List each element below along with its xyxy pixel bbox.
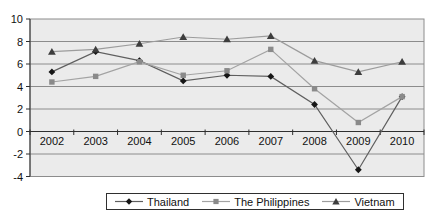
- y-axis-labels: 1086420-2-4: [11, 13, 23, 183]
- svg-text:4: 4: [17, 81, 23, 93]
- legend-item-thailand: Thailand: [115, 196, 189, 208]
- svg-text:10: 10: [11, 13, 23, 25]
- legend-label-vietnam: Vietnam: [354, 196, 394, 208]
- svg-text:2007: 2007: [259, 135, 283, 147]
- legend-label-philippines: The Philippines: [234, 196, 309, 208]
- philippines-square-icon: [202, 197, 230, 206]
- plot-area: 1086420-2-420022003200420052006200720082…: [0, 0, 432, 190]
- svg-text:2009: 2009: [346, 135, 370, 147]
- legend-item-philippines: The Philippines: [202, 196, 309, 208]
- svg-text:0: 0: [17, 126, 23, 138]
- line-chart: 1086420-2-420022003200420052006200720082…: [0, 0, 432, 212]
- svg-text:2: 2: [17, 103, 23, 115]
- svg-text:-2: -2: [13, 148, 23, 160]
- svg-text:2003: 2003: [83, 135, 107, 147]
- plot-background: [30, 19, 424, 177]
- svg-text:2010: 2010: [390, 135, 414, 147]
- vietnam-triangle-icon: [322, 197, 350, 206]
- svg-text:2005: 2005: [171, 135, 195, 147]
- svg-text:8: 8: [17, 36, 23, 48]
- svg-text:2006: 2006: [215, 135, 239, 147]
- thailand-diamond-icon: [115, 197, 143, 206]
- svg-text:2002: 2002: [40, 135, 64, 147]
- y-axis: [26, 19, 30, 177]
- x-axis-labels: 200220032004200520062007200820092010: [40, 135, 415, 147]
- legend-label-thailand: Thailand: [147, 196, 189, 208]
- legend-item-vietnam: Vietnam: [322, 196, 394, 208]
- svg-text:2004: 2004: [127, 135, 151, 147]
- svg-text:6: 6: [17, 58, 23, 70]
- svg-text:-4: -4: [13, 171, 23, 183]
- legend: Thailand The Philippines Vietnam: [106, 193, 404, 210]
- svg-text:2008: 2008: [302, 135, 326, 147]
